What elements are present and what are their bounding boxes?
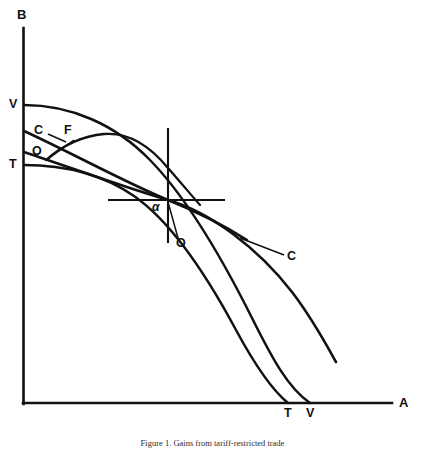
interior-label-c-right: C <box>287 250 296 263</box>
figure-drawing <box>0 0 425 449</box>
figure-container: B A V C O T F α O C T V Figure 1. Gains … <box>0 0 425 449</box>
x-axis-label-v: V <box>306 407 315 420</box>
axis-label-a: A <box>399 396 409 409</box>
x-axis-label-t: T <box>284 407 292 420</box>
leader-line-c-right <box>240 238 284 255</box>
figure-caption: Figure 1. Gains from tariff-restricted t… <box>0 438 425 448</box>
leader-line-group <box>48 134 284 255</box>
leader-line-o-upper <box>48 140 74 159</box>
equilibrium-label-alpha: α <box>152 201 160 213</box>
axis-label-b: B <box>17 8 27 21</box>
interior-label-f: F <box>64 124 72 137</box>
y-axis-label-o: O <box>32 145 42 158</box>
y-axis-label-c: C <box>34 124 43 137</box>
y-axis-label-t: T <box>9 158 17 171</box>
y-axis-label-v: V <box>9 98 18 111</box>
interior-label-o-lower: O <box>176 237 186 250</box>
